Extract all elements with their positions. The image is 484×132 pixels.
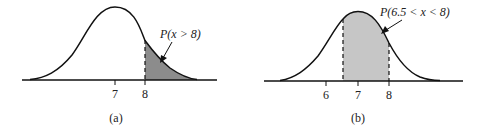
panel-b-caption: (b) <box>351 111 365 125</box>
normal-curves-figure: 7 8 P(x > 8) (a) 6 7 8 P(6.5 < x < 8) (b… <box>0 0 484 132</box>
panel-b-shaded-region <box>343 12 389 82</box>
panel-a-caption: (a) <box>109 111 122 125</box>
panel-b: 6 7 8 P(6.5 < x < 8) (b) <box>264 5 463 125</box>
panel-b-tick-label-6: 6 <box>323 88 329 102</box>
panel-a-arrow-shaft <box>163 42 172 58</box>
panel-b-tick-label-7: 7 <box>355 88 361 102</box>
panel-a-tick-label-7: 7 <box>112 87 118 101</box>
panel-b-arrow-shaft <box>386 20 402 30</box>
panel-a-tick-label-8: 8 <box>142 87 148 101</box>
panel-b-tick-label-8: 8 <box>386 88 392 102</box>
panel-a: 7 8 P(x > 8) (a) <box>22 7 217 125</box>
panel-a-shaded-region <box>145 41 197 81</box>
panel-a-bell-curve <box>30 7 197 80</box>
panel-a-annotation: P(x > 8) <box>159 27 201 41</box>
panel-b-annotation: P(6.5 < x < 8) <box>379 5 450 19</box>
